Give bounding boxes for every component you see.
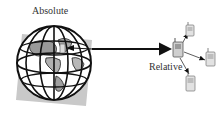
phone-right-icon bbox=[206, 48, 215, 66]
absolute-relative-diagram: Absolute Relative bbox=[0, 0, 224, 115]
phone-bottom-icon bbox=[186, 72, 195, 91]
absolute-label: Absolute bbox=[32, 5, 68, 16]
relative-label: Relative bbox=[149, 61, 182, 72]
relative-links bbox=[180, 33, 205, 74]
phone-center-icon bbox=[173, 38, 183, 57]
globe-icon bbox=[17, 26, 91, 100]
phone-top-icon bbox=[186, 22, 194, 36]
